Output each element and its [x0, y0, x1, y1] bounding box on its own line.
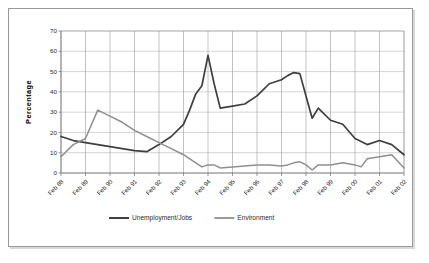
x-tick-label: Feb 90 — [95, 177, 114, 196]
y-tick-label: 60 — [50, 47, 57, 54]
y-tick-label: 10 — [50, 149, 57, 156]
y-tick-label: 0 — [54, 169, 58, 176]
x-tick-label: Feb 01 — [365, 177, 384, 196]
x-tick-label: Feb 88 — [46, 177, 65, 196]
chart-canvas: 010203040506070Feb 88Feb 89Feb 90Feb 91F… — [9, 9, 414, 248]
x-tick-label: Feb 89 — [71, 177, 90, 196]
x-tick-label: Feb 92 — [144, 177, 163, 196]
legend-label-environment: Environment — [237, 214, 274, 221]
x-tick-label: Feb 95 — [218, 177, 237, 196]
line-chart: 010203040506070Feb 88Feb 89Feb 90Feb 91F… — [9, 9, 414, 248]
x-tick-label: Feb 94 — [193, 177, 212, 196]
y-tick-label: 40 — [50, 88, 57, 95]
x-tick-label: Feb 99 — [316, 177, 335, 196]
x-axis-labels: Feb 88Feb 89Feb 90Feb 91Feb 92Feb 93Feb … — [46, 173, 408, 196]
chart-frame: 010203040506070Feb 88Feb 89Feb 90Feb 91F… — [8, 8, 413, 247]
x-tick-label: Feb 98 — [291, 177, 310, 196]
y-tick-label: 70 — [50, 27, 57, 34]
y-tick-label: 30 — [50, 108, 57, 115]
y-tick-label: 50 — [50, 68, 57, 75]
x-tick-label: Feb 97 — [267, 177, 286, 196]
x-tick-label: Feb 96 — [242, 177, 261, 196]
x-tick-label: Feb 93 — [169, 177, 188, 196]
x-tick-label: Feb 02 — [389, 177, 408, 196]
x-tick-label: Feb 91 — [120, 177, 139, 196]
x-tick-label: Feb 00 — [340, 177, 359, 196]
legend-label-unemployment-jobs: Unemployment/Jobs — [132, 214, 193, 222]
y-axis-title: Percentage — [24, 80, 33, 124]
chart-legend: Unemployment/JobsEnvironment — [109, 214, 275, 222]
y-tick-label: 20 — [50, 129, 57, 136]
